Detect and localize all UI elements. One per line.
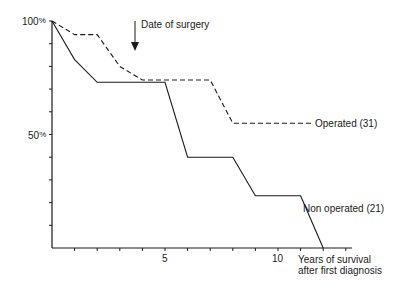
x-tick-label-5: 5 — [162, 253, 168, 264]
series-non-operated-line — [52, 21, 323, 248]
series-label-non-operated: Non operated (21) — [303, 203, 384, 214]
x-tick-label-10: 10 — [272, 253, 284, 264]
annotation-date-of-surgery: Date of surgery — [141, 19, 209, 30]
y-tick-label-100: 100% — [22, 16, 46, 27]
series-label-operated: Operated (31) — [315, 118, 377, 129]
y-tick-label-50: 50% — [28, 130, 46, 141]
x-axis-label-line2: after first diagnosis — [298, 265, 382, 276]
x-axis-label-line1: Years of survival — [298, 254, 371, 265]
survival-chart: 100% 50% 5 10 Years of survival after fi… — [0, 0, 413, 292]
series-operated-line — [52, 21, 312, 123]
surgery-arrow-icon — [131, 21, 139, 51]
